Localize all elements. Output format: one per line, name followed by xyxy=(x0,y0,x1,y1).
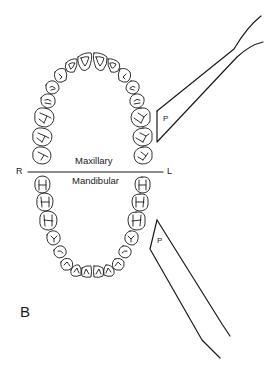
dental-arch-diagram xyxy=(0,0,279,379)
tooth-upper-central-incisor-right xyxy=(78,53,92,71)
upper-probe-instrument xyxy=(157,16,263,142)
tooth-lower-first-premolar-left xyxy=(119,246,131,258)
tooth-lower-central-incisor-right xyxy=(82,266,92,278)
upper-probe-label: P xyxy=(163,114,168,123)
tooth-upper-lateral-incisor-left xyxy=(108,59,120,73)
tooth-lower-third-molar-right xyxy=(35,176,50,193)
tooth-lower-first-premolar-right xyxy=(54,246,66,258)
tooth-upper-first-premolar-right xyxy=(46,81,59,94)
panel-label: B xyxy=(20,303,30,320)
tooth-upper-third-molar-left xyxy=(134,147,152,164)
lower-probe-label: P xyxy=(157,236,162,245)
tooth-upper-lateral-incisor-right xyxy=(65,59,77,73)
tooth-upper-second-premolar-right xyxy=(41,94,55,108)
tooth-upper-second-premolar-left xyxy=(130,94,144,108)
tooth-upper-third-molar-right xyxy=(33,147,51,164)
tooth-upper-first-molar-right xyxy=(35,108,54,127)
tooth-lower-central-incisor-left xyxy=(94,266,104,278)
tooth-upper-central-incisor-left xyxy=(93,53,107,71)
mandibular-arch xyxy=(35,176,150,277)
tooth-lower-canine-left xyxy=(112,258,124,270)
tooth-upper-second-molar-right xyxy=(33,128,52,146)
right-side-label: R xyxy=(16,166,23,176)
maxillary-arch xyxy=(33,53,152,164)
mandibular-label: Mandibular xyxy=(72,175,119,186)
maxillary-label: Maxillary xyxy=(75,155,112,166)
tooth-upper-first-premolar-left xyxy=(126,81,139,94)
tooth-upper-first-molar-left xyxy=(131,108,150,127)
tooth-upper-second-molar-left xyxy=(133,128,152,146)
left-side-label: L xyxy=(167,166,172,176)
tooth-lower-canine-right xyxy=(61,258,73,270)
